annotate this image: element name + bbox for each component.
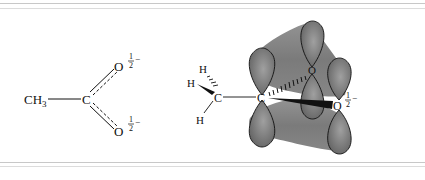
svg-text:2: 2: [129, 61, 133, 70]
svg-text:−: −: [135, 117, 140, 127]
carbon-label: C: [82, 92, 91, 107]
h-top-label: H: [199, 63, 207, 75]
methyl-carbon-label: C: [214, 91, 222, 105]
svg-text:−: −: [352, 93, 357, 103]
svg-text:1: 1: [346, 91, 350, 100]
h-left-label: H: [187, 77, 195, 89]
acetate-figure: CH3 C O 1 2 − O 1 2 −: [0, 0, 425, 180]
hashed-bond-h-top: [207, 76, 218, 86]
wedge-bond-h-left: [197, 84, 215, 95]
charge-bottom: 1 2 −: [128, 115, 140, 133]
right-structure: H H H C C O: [187, 21, 357, 154]
svg-text:−: −: [135, 54, 140, 64]
svg-text:1: 1: [129, 115, 133, 124]
carbon-p-lobe-upper: [249, 48, 275, 95]
charge-top: 1 2 −: [128, 52, 140, 70]
left-structure: CH3 C O 1 2 − O 1 2 −: [24, 52, 140, 139]
oxygen-top-label: O: [114, 59, 123, 74]
bond-h-bottom: [204, 101, 213, 113]
bond-solid-bottom: [90, 106, 114, 129]
bond-dashed-bottom: [93, 103, 117, 126]
oxygen-back-label: O: [308, 64, 316, 76]
bond-dashed-top: [93, 72, 117, 95]
svg-text:1: 1: [129, 52, 133, 61]
oxygen-front-label: O: [333, 99, 342, 113]
h-bottom-label: H: [196, 114, 204, 126]
svg-text:2: 2: [129, 124, 133, 133]
methyl-label: CH3: [24, 92, 47, 109]
carboxyl-carbon-label: C: [257, 91, 265, 105]
charge-front: 1 2 −: [345, 91, 357, 109]
oxygen-bottom-label: O: [114, 124, 123, 139]
bond-solid-top: [90, 69, 114, 92]
svg-text:2: 2: [346, 100, 350, 109]
